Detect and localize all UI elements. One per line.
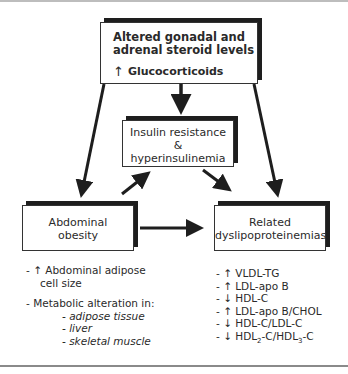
list-item-vldl: - ↑ VLDL-TG bbox=[216, 267, 322, 280]
list-item-ldl-apob: - ↑ LDL-apo B bbox=[216, 280, 322, 293]
hdl-suffix: -C bbox=[303, 330, 314, 342]
box-insulin-resistance: Insulin resistance & hyperinsulinemia bbox=[122, 120, 234, 167]
arrow-middle-to-right bbox=[203, 170, 227, 188]
abdominal-line2: obesity bbox=[23, 229, 133, 242]
dyslipoproteinemia-list: - ↑ VLDL-TG - ↑ LDL-apo B - ↓ HDL-C - ↑ … bbox=[216, 267, 322, 342]
abdominal-effects-list: - ↑ Abdominal adipose cell size - Metabo… bbox=[26, 264, 154, 347]
insulin-line2: & bbox=[123, 139, 233, 152]
up-arrow-icon: ↑ bbox=[113, 64, 124, 79]
insulin-line3: hyperinsulinemia bbox=[123, 152, 233, 165]
list-subitem-adipose: - adipose tissue bbox=[26, 310, 154, 323]
list-item-ldl-apob-chol: - ↑ LDL-apo B/CHOL bbox=[216, 305, 322, 318]
glucocorticoids-label: Glucocorticoids bbox=[128, 65, 224, 78]
list-item-cell-size: - ↑ Abdominal adipose bbox=[26, 264, 154, 277]
abdominal-line1: Abdominal bbox=[23, 216, 133, 229]
box-related-dyslipoproteinemias: Related dyslipoproteinemias bbox=[214, 205, 326, 251]
bottom-border-line bbox=[0, 365, 348, 367]
related-line2: dyslipoproteinemias bbox=[215, 229, 325, 242]
arrow-top-to-right bbox=[254, 84, 277, 192]
list-item-metabolic: - Metabolic alteration in: bbox=[26, 297, 154, 310]
list-item-hdl-c: - ↓ HDL-C bbox=[216, 292, 322, 305]
arrow-left-to-middle bbox=[122, 175, 146, 194]
related-line1: Related bbox=[215, 216, 325, 229]
hdl-mid: -C/HDL bbox=[262, 330, 299, 342]
list-subitem-liver: - liver bbox=[26, 322, 154, 335]
list-item-hdl-ldl: - ↓ HDL-C/LDL-C bbox=[216, 317, 322, 330]
steroid-line2: adrenal steroid levels bbox=[113, 44, 257, 57]
box-steroid-levels: Altered gonadal and adrenal steroid leve… bbox=[100, 22, 258, 84]
box-abdominal-obesity: Abdominal obesity bbox=[22, 205, 134, 251]
list-subitem-muscle: - skeletal muscle bbox=[26, 335, 154, 348]
insulin-line1: Insulin resistance bbox=[123, 126, 233, 139]
arrow-top-to-left bbox=[82, 84, 104, 192]
list-item-hdl2-hdl3: - ↓ HDL2-C/HDL3-C bbox=[216, 330, 322, 343]
glucocorticoids-row: ↑ Glucocorticoids bbox=[113, 64, 257, 79]
list-item-cell-size-cont: cell size bbox=[26, 277, 154, 290]
hdl-prefix: - ↓ HDL bbox=[216, 330, 257, 342]
